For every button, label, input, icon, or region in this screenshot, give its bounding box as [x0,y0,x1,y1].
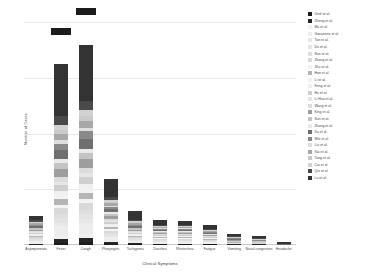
legend-label: Zhu et al. [315,65,330,69]
bar-series-group: AsymptomaticFeverCoughPharyngitisTachypn… [24,22,296,245]
legend-label: Du et al. [315,45,328,49]
legend-swatch [308,124,312,128]
bar-column[interactable]: Headache [271,22,296,245]
bar-segment[interactable] [54,169,68,177]
legend-swatch [308,130,312,134]
bar-segment[interactable] [104,244,118,245]
stacked-bar[interactable] [104,179,118,245]
legend-label: Han et al. [315,71,330,75]
bar-column[interactable]: Vomiting [222,22,247,245]
bar-segment[interactable] [79,121,93,128]
bar-segment[interactable] [79,223,93,234]
bar-segment[interactable] [79,203,93,210]
stacked-bar[interactable] [128,211,142,245]
legend-swatch [308,150,312,154]
bar-segment[interactable] [54,64,68,116]
legend-swatch [308,137,312,141]
legend-swatch [308,78,312,82]
bar-segment[interactable] [104,179,118,197]
bar-segment[interactable] [227,244,241,245]
stacked-bar[interactable] [54,64,68,245]
bar-column[interactable]: Cough [73,22,98,245]
bar-segment[interactable] [79,242,93,245]
x-axis-tick-label: Headache [254,247,314,251]
legend-swatch [308,117,312,121]
legend-label: Li et al. [315,78,326,82]
legend-label: Hu et al. [315,91,328,95]
stacked-bar[interactable] [203,225,217,245]
bar-column[interactable]: Nasal congestion [247,22,272,245]
legend-swatch [308,12,312,16]
plot-area: Number of Cases 0100200300400 Asymptomat… [24,22,296,245]
bar-segment[interactable] [277,244,291,245]
bar-column[interactable]: Asymptomatic [24,22,49,245]
bar-segment[interactable] [54,226,68,236]
stacked-bar[interactable] [153,220,167,245]
bar-segment[interactable] [54,116,68,124]
bar-segment[interactable] [54,144,68,151]
legend-label: Zhang et al. [315,124,334,128]
bar-column[interactable]: Pharyngitis [98,22,123,245]
bar-segment[interactable] [54,208,68,215]
bar-column[interactable]: Fever [49,22,74,245]
stacked-bar[interactable] [79,45,93,246]
x-axis-title: Clinical Symptoms [24,261,296,266]
legend-label: King et al. [315,110,331,114]
bar-annotation-box [76,8,96,15]
bar-segment[interactable] [79,131,93,138]
bar-column[interactable]: Diarrhea [148,22,173,245]
bar-segment[interactable] [79,159,93,167]
legend-swatch [308,169,312,173]
bar-segment[interactable] [54,150,68,159]
legend-swatch [308,19,312,23]
legend-swatch [308,110,312,114]
legend-swatch [308,32,312,36]
bar-segment[interactable] [153,244,167,245]
bar-segment[interactable] [128,244,142,245]
bar-column[interactable]: Rhinorrhea [172,22,197,245]
bar-segment[interactable] [203,244,217,245]
bar-column[interactable]: Fatigue [197,22,222,245]
legend-swatch [308,25,312,29]
legend-label: Zheng et al. [315,19,334,23]
legend-label: Tan et al. [315,38,329,42]
legend-label: Lu et al. [315,176,328,180]
legend-label: Wang et al. [315,104,333,108]
legend-swatch [308,104,312,108]
legend-swatch [308,97,312,101]
legend-swatch [308,176,312,180]
legend-label: Liu et al. [315,143,328,147]
legend-swatch [308,143,312,147]
stacked-bar[interactable] [29,216,43,245]
legend-label: Tang et al. [315,156,331,160]
bar-segment[interactable] [29,244,43,245]
legend-label: Sun et al. [315,52,330,56]
legend-label: Feng et al. [315,84,332,88]
bar-segment[interactable] [79,177,93,184]
legend-swatch [308,156,312,160]
legend-label: Ma et al. [315,25,328,29]
legend: Deol et al.Zheng et al.Ma et al.Garazzin… [308,11,366,181]
bar-segment[interactable] [178,244,192,245]
stacked-bar[interactable] [178,221,192,245]
legend-item[interactable]: Lu et al. [308,175,366,182]
stacked-bar[interactable] [277,242,291,245]
legend-swatch [308,58,312,62]
bar-segment[interactable] [54,243,68,245]
legend-label: Xia et al. [315,150,329,154]
bar-segment[interactable] [79,139,93,149]
legend-swatch [308,163,312,167]
bar-segment[interactable] [128,211,142,220]
legend-label: Sun et al. [315,117,330,121]
legend-label: Garazzino et al. [315,32,340,36]
legend-label: Deol et al. [315,12,331,16]
legend-label: Cai et al. [315,163,329,167]
bar-segment[interactable] [252,244,266,245]
bar-segment[interactable] [79,101,93,110]
stacked-bar[interactable] [227,234,241,245]
stacked-bar[interactable] [252,236,266,245]
legend-label: Wei et al. [315,137,330,141]
bar-column[interactable]: Tachypnea [123,22,148,245]
legend-swatch [308,52,312,56]
bar-segment[interactable] [79,45,93,101]
